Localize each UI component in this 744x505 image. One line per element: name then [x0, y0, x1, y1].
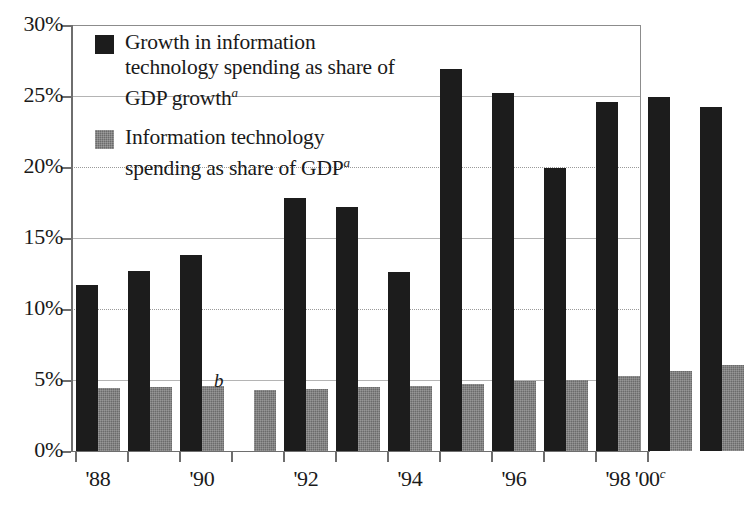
legend-label-growth-text: Growth in information technology spendin…	[125, 30, 395, 110]
x-tick-11	[647, 451, 649, 462]
bar-gray-1995	[462, 384, 484, 451]
bar-gray-1990	[202, 386, 224, 451]
bar-dark-1996	[492, 93, 514, 451]
bar-gray-1989	[150, 387, 172, 451]
bar-dark-1995	[440, 69, 462, 451]
legend-label-growth-superscript: a	[232, 85, 238, 100]
x-tick-6	[387, 451, 389, 462]
bar-dark-1994	[388, 272, 410, 451]
bar-gray-1994	[410, 386, 432, 451]
bar-dark-1990	[180, 255, 202, 451]
x-axis-label-90: '90	[167, 466, 237, 492]
x-axis-label-96: '96	[479, 466, 549, 492]
x-axis-label-88: '88	[63, 466, 133, 492]
x-axis-label-00-text: '00	[635, 466, 660, 491]
legend-entry-growth: Growth in information technology spendin…	[95, 30, 395, 111]
bar-dark-1988	[76, 285, 98, 451]
bar-gray-1992	[306, 389, 328, 451]
x-tick-9	[543, 451, 545, 462]
x-tick-10	[595, 451, 597, 462]
legend-label-spending-text: Information technology spending as share…	[125, 125, 344, 180]
x-tick-3	[231, 451, 233, 462]
bar-dark-1998	[596, 102, 618, 451]
chart-legend: Growth in information technology spendin…	[95, 30, 395, 195]
x-tick-1	[127, 451, 129, 462]
bar-gray-2000	[722, 365, 744, 451]
legend-label-growth: Growth in information technology spendin…	[125, 30, 395, 111]
bar-dark-2000	[700, 107, 722, 451]
legend-swatch-dark-icon	[95, 35, 114, 54]
x-axis-label-92: '92	[271, 466, 341, 492]
bar-dark-1992	[284, 198, 306, 451]
legend-label-spending-superscript: a	[344, 155, 350, 170]
missing-data-marker: b	[214, 370, 224, 392]
legend-swatch-gray-icon	[95, 130, 114, 149]
bar-dark-1997	[544, 168, 566, 451]
x-tick-0	[75, 451, 77, 462]
bar-gray-1999	[670, 371, 692, 451]
x-axis-label-94: '94	[375, 466, 445, 492]
bar-gray-1996	[514, 381, 536, 451]
x-tick-5	[335, 451, 337, 462]
bar-gray-1993	[358, 387, 380, 451]
x-axis-label-00: '00c	[615, 466, 685, 492]
bar-dark-1993	[336, 207, 358, 451]
legend-label-spending: Information technology spending as share…	[125, 125, 395, 181]
bar-gray-1997	[566, 380, 588, 451]
bar-gray-1998	[618, 376, 640, 451]
bar-gray-1991	[254, 390, 276, 451]
x-tick-4	[283, 451, 285, 462]
x-tick-2	[179, 451, 181, 462]
x-tick-7	[439, 451, 441, 462]
bar-gray-1988	[98, 388, 120, 451]
x-axis-label-00-superscript: c	[660, 466, 665, 481]
legend-entry-spending: Information technology spending as share…	[95, 125, 395, 181]
bar-dark-1999	[648, 97, 670, 451]
x-tick-8	[491, 451, 493, 462]
bar-dark-1989	[128, 271, 150, 451]
